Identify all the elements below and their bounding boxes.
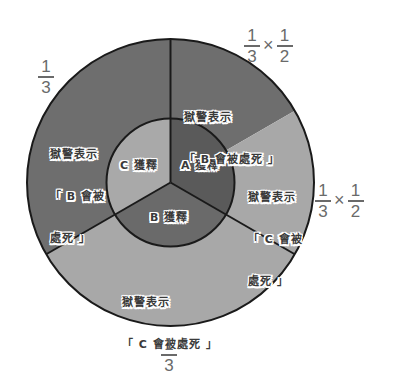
- numerator: 1: [349, 182, 362, 199]
- outer-label-top-left-line2: 「 B 會被: [50, 190, 105, 204]
- fraction: 1 3: [38, 58, 54, 96]
- fraction: 1 3: [161, 336, 177, 374]
- inner-label-C: C 獲釋: [120, 159, 158, 173]
- numerator: 1: [39, 58, 52, 75]
- outer-label-right: 獄警表示 「 C 會被 處死 」: [248, 163, 303, 303]
- numerator: 1: [162, 336, 175, 353]
- probability-top-left: 1 3: [38, 58, 54, 96]
- outer-label-top-right-line1: 獄警表示: [184, 111, 280, 125]
- fraction-a: 1 3: [315, 182, 331, 220]
- probability-bottom: 1 3: [161, 336, 177, 374]
- denominator: 3: [162, 357, 175, 374]
- outer-label-top-left-line1: 獄警表示: [50, 148, 105, 162]
- multiply-sign: ×: [334, 190, 345, 211]
- probability-right: 1 3 × 1 2: [315, 182, 364, 220]
- denominator: 2: [349, 203, 362, 220]
- outer-label-right-line3: 處死 」: [248, 275, 303, 289]
- outer-label-top-left: 獄警表示 「 B 會被 處死 」: [50, 120, 105, 260]
- outer-label-top-left-line3: 處死 」: [50, 232, 105, 246]
- denominator: 3: [39, 79, 52, 96]
- denominator: 3: [316, 203, 329, 220]
- outer-label-right-line1: 獄警表示: [248, 191, 303, 205]
- fraction-b: 1 2: [277, 27, 293, 65]
- inner-label-B: B 獲釋: [150, 211, 188, 225]
- numerator: 1: [245, 27, 258, 44]
- denominator: 2: [278, 48, 291, 65]
- denominator: 3: [245, 48, 258, 65]
- outer-label-right-line2: 「 C 會被: [248, 233, 303, 247]
- numerator: 1: [316, 182, 329, 199]
- numerator: 1: [278, 27, 291, 44]
- probability-top-right: 1 3 × 1 2: [244, 27, 293, 65]
- fraction-b: 1 2: [348, 182, 364, 220]
- fraction-a: 1 3: [244, 27, 260, 65]
- outer-label-bottom-line1: 獄警表示: [122, 296, 218, 310]
- multiply-sign: ×: [263, 35, 274, 56]
